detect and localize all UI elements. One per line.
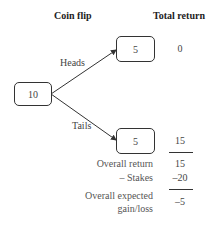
expected-label-line2: gain/loss (117, 203, 153, 215)
root-node: 10 (14, 82, 52, 106)
heads-edge-label: Heads (60, 57, 85, 68)
stakes-value: –20 (167, 172, 193, 183)
divider-1 (169, 152, 193, 153)
overall-return-value: 15 (167, 158, 193, 169)
overall-return-label: Overall return (97, 158, 153, 170)
tails-return: 15 (167, 135, 193, 146)
heads-node: 5 (116, 36, 155, 62)
expected-label-line1: Overall expected (85, 190, 153, 202)
tails-edge-label: Tails (72, 120, 91, 131)
tails-node: 5 (116, 128, 155, 154)
divider-2 (169, 189, 193, 190)
heads-return: 0 (167, 43, 193, 54)
expected-value: –5 (167, 196, 193, 207)
stakes-label: – Stakes (119, 172, 153, 184)
tails-edge (51, 94, 116, 140)
